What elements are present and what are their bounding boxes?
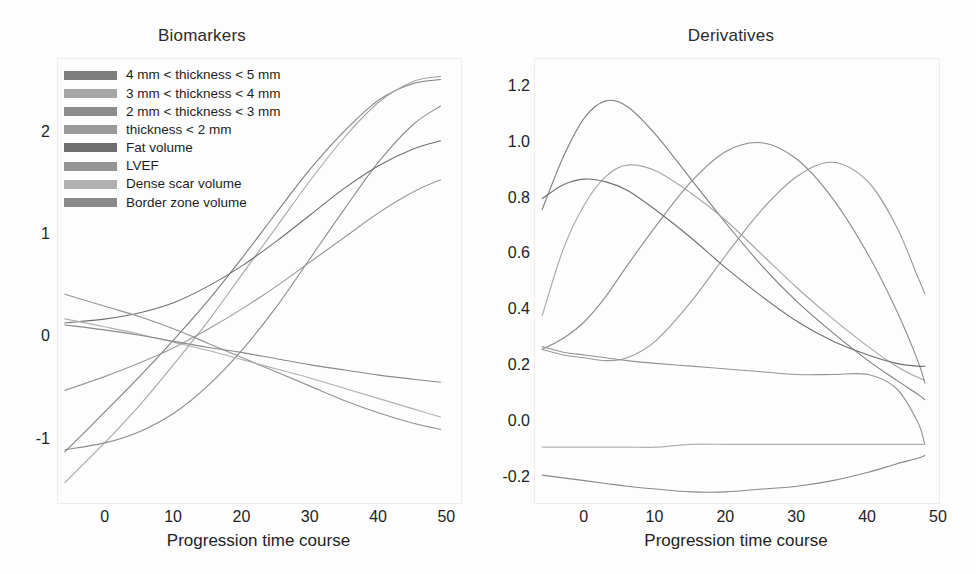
data-series-line	[65, 294, 441, 429]
y-axis-tick-label: 2	[41, 123, 50, 141]
y-axis-labels-biomarkers: -1012	[8, 0, 50, 574]
data-series-line	[542, 142, 925, 382]
data-series-line	[542, 456, 925, 493]
legend-label: 2 mm < thickness < 3 mm	[126, 105, 281, 119]
x-axis-tick-label: 10	[164, 508, 182, 526]
legend-swatch-icon	[64, 125, 117, 134]
legend-item: thickness < 2 mm	[64, 121, 281, 139]
x-axis-tick-label: 20	[233, 508, 251, 526]
data-series-line	[542, 347, 925, 445]
legend-swatch-icon	[64, 71, 117, 80]
x-axis-labels-derivatives: 01020304050	[534, 508, 938, 532]
data-series-line	[542, 179, 925, 366]
x-axis-tick-label: 0	[100, 508, 109, 526]
x-axis-tick-label: 50	[437, 508, 455, 526]
plot-area-derivatives	[534, 58, 940, 504]
legend-swatch-icon	[64, 143, 117, 152]
legend-item: 4 mm < thickness < 5 mm	[64, 66, 281, 84]
legend-label: 3 mm < thickness < 4 mm	[126, 87, 281, 101]
legend-swatch-icon	[64, 89, 117, 98]
legend-swatch-icon	[64, 180, 117, 189]
legend-label: thickness < 2 mm	[126, 123, 231, 137]
data-series-line	[65, 319, 441, 417]
x-axis-tick-label: 30	[301, 508, 319, 526]
y-axis-tick-label: 1.2	[508, 77, 530, 95]
legend-label: LVEF	[126, 159, 159, 173]
y-axis-tick-label: 1.0	[508, 133, 530, 151]
x-axis-title-derivatives: Progression time course	[534, 531, 938, 551]
legend-swatch-icon	[64, 198, 117, 207]
y-axis-tick-label: 1	[41, 225, 50, 243]
legend-item: Fat volume	[64, 139, 281, 157]
y-axis-tick-label: 0.6	[508, 244, 530, 262]
data-series-line	[542, 165, 925, 380]
y-axis-tick-label: -0.2	[502, 468, 530, 486]
figure-root: Biomarkers -1012 01020304050 Progression…	[0, 0, 976, 574]
x-axis-tick-label: 50	[929, 508, 947, 526]
y-axis-tick-label: 0.2	[508, 356, 530, 374]
x-axis-tick-label: 20	[716, 508, 734, 526]
legend-label: 4 mm < thickness < 5 mm	[126, 68, 281, 82]
data-series-line	[65, 325, 441, 382]
legend-label: Border zone volume	[126, 196, 247, 210]
curve-group-derivatives	[535, 59, 939, 503]
legend-swatch-icon	[64, 162, 117, 171]
y-axis-tick-label: 0.0	[508, 412, 530, 430]
legend-label: Dense scar volume	[126, 177, 242, 191]
x-axis-title-biomarkers: Progression time course	[57, 531, 460, 551]
x-axis-tick-label: 40	[858, 508, 876, 526]
y-axis-tick-label: -1	[36, 430, 50, 448]
y-axis-tick-label: 0	[41, 327, 50, 345]
legend: 4 mm < thickness < 5 mm3 mm < thickness …	[64, 66, 281, 212]
legend-item: 3 mm < thickness < 4 mm	[64, 84, 281, 102]
legend-label: Fat volume	[126, 141, 193, 155]
y-axis-tick-label: 0.4	[508, 300, 530, 318]
legend-swatch-icon	[64, 107, 117, 116]
data-series-line	[542, 444, 925, 447]
chart-title-derivatives: Derivatives	[487, 26, 975, 46]
data-series-line	[542, 162, 925, 360]
x-axis-labels-biomarkers: 01020304050	[57, 508, 460, 532]
x-axis-tick-label: 40	[369, 508, 387, 526]
x-axis-tick-label: 10	[646, 508, 664, 526]
legend-item: 2 mm < thickness < 3 mm	[64, 102, 281, 120]
legend-item: LVEF	[64, 157, 281, 175]
x-axis-tick-label: 30	[787, 508, 805, 526]
legend-item: Dense scar volume	[64, 175, 281, 193]
legend-item: Border zone volume	[64, 193, 281, 211]
y-axis-labels-derivatives: -0.20.00.20.40.60.81.01.2	[488, 0, 530, 574]
x-axis-tick-label: 0	[579, 508, 588, 526]
chart-title-biomarkers: Biomarkers	[0, 26, 446, 46]
y-axis-tick-label: 0.8	[508, 189, 530, 207]
